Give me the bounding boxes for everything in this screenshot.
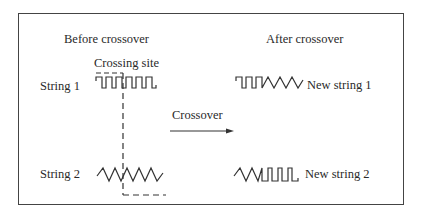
diagram-graphics xyxy=(0,0,422,221)
crossover-arrow-head xyxy=(226,129,234,134)
new-string-2-wave xyxy=(234,168,298,181)
new-string-1-wave xyxy=(236,77,303,88)
string-1-square-wave xyxy=(96,77,156,88)
string-2-zigzag xyxy=(97,168,163,181)
